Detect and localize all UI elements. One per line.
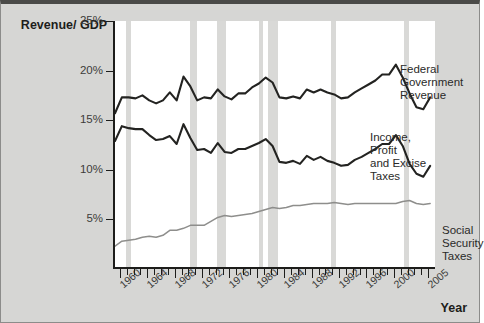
x-axis-minor-tick	[134, 269, 135, 275]
x-axis-minor-tick	[414, 269, 415, 275]
x-axis-minor-tick	[277, 269, 278, 275]
x-axis-minor-tick	[387, 269, 388, 275]
x-axis-minor-tick	[401, 269, 402, 275]
y-axis-tick-label: 15%	[1, 114, 111, 125]
plot-area: Federal Government Revenue Income, Profi…	[113, 21, 435, 269]
x-axis-title: Year	[441, 301, 467, 315]
x-axis-minor-tick	[195, 269, 196, 275]
x-axis-minor-tick	[182, 269, 183, 275]
x-axis-minor-tick	[161, 269, 162, 275]
x-axis-minor-tick	[319, 269, 320, 275]
x-axis-minor-tick	[271, 269, 272, 275]
x-axis-minor-tick	[243, 269, 244, 275]
y-axis-tick-label: 20%	[1, 65, 111, 76]
y-axis-tick-label: 10%	[1, 164, 111, 175]
series-annotation-federal-government-revenue: Federal Government Revenue	[400, 63, 463, 102]
x-axis-minor-tick	[264, 269, 265, 275]
y-axis-tick-label: 5%	[1, 213, 111, 224]
y-axis-tick-label: 25%	[1, 15, 111, 26]
series-line-federal-government-revenue	[115, 65, 430, 114]
x-axis-minor-tick	[236, 269, 237, 275]
series-annotation-social-security-taxes: Social Security Taxes	[442, 224, 484, 263]
x-axis-minor-tick	[250, 269, 251, 275]
x-axis-minor-tick	[346, 269, 347, 275]
x-axis-minor-tick	[188, 269, 189, 275]
y-axis-tick-mark	[106, 219, 113, 220]
x-axis: 1960196419681972197619801984198819921996…	[113, 269, 437, 279]
x-axis-minor-tick	[360, 269, 361, 275]
x-axis-minor-tick	[127, 269, 128, 275]
x-axis-minor-tick	[353, 269, 354, 275]
series-line-social-security-taxes	[115, 201, 430, 247]
y-axis-tick-mark	[106, 21, 113, 22]
x-axis-minor-tick	[216, 269, 217, 275]
x-axis-minor-tick	[325, 269, 326, 275]
x-axis-minor-tick	[373, 269, 374, 275]
x-axis-minor-tick	[380, 269, 381, 275]
x-axis-minor-tick	[291, 269, 292, 275]
x-axis-minor-tick	[140, 269, 141, 275]
x-axis-minor-tick	[421, 269, 422, 275]
y-axis-tick-mark	[106, 71, 113, 72]
x-axis-minor-tick	[154, 269, 155, 275]
x-axis-minor-tick	[209, 269, 210, 275]
x-axis-minor-tick	[223, 269, 224, 275]
x-axis-minor-tick	[168, 269, 169, 275]
x-axis-minor-tick	[408, 269, 409, 275]
x-axis-minor-tick	[332, 269, 333, 275]
x-axis-minor-tick	[298, 269, 299, 275]
x-axis-minor-tick	[305, 269, 306, 275]
y-axis-tick-mark	[106, 170, 113, 171]
series-annotation-income-profit-excise-taxes: Income, Profit and Excise Taxes	[370, 131, 435, 183]
y-axis-tick-mark	[106, 120, 113, 121]
